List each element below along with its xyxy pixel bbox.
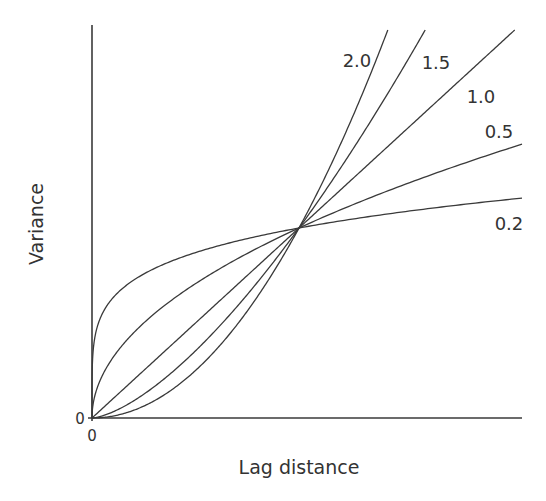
x-axis-label: Lag distance — [239, 456, 360, 478]
variogram-chart: 0 0 Lag distance Variance 2.0 1.5 1.0 0.… — [0, 0, 546, 501]
curve-label-0-2: 0.2 — [495, 213, 524, 234]
y-origin-label: 0 — [75, 410, 85, 428]
curves-group — [92, 30, 522, 418]
curve-exponent-1-5 — [92, 30, 425, 418]
y-axis-label: Variance — [25, 183, 47, 265]
curve-label-1-0: 1.0 — [467, 86, 496, 107]
curve-exponent-1-0 — [92, 30, 515, 418]
curve-label-2-0: 2.0 — [343, 50, 372, 71]
curve-exponent-2-0 — [92, 30, 388, 418]
x-origin-label: 0 — [87, 427, 97, 445]
curve-label-1-5: 1.5 — [422, 52, 451, 73]
curve-label-0-5: 0.5 — [485, 121, 514, 142]
curve-exponent-0-5 — [92, 144, 522, 418]
